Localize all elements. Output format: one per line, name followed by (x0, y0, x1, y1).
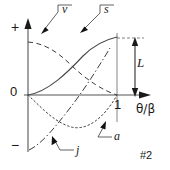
axis-label-origin: 0 (10, 85, 17, 98)
axis-label-positive: + (11, 20, 19, 34)
leader-arrowhead-s (80, 26, 88, 33)
leader-arrowhead-a (100, 121, 106, 129)
motion-profile-figure: + − 0 1 θ/β L v s a j #2 (0, 0, 170, 170)
curve-j-jerk (29, 48, 110, 150)
x-axis-label: θ/β (136, 103, 155, 115)
curve-v-velocity (28, 42, 117, 95)
curve-label-a: a (114, 130, 120, 142)
curve-label-v: v (62, 3, 67, 15)
x-axis-arrowhead (139, 91, 151, 98)
leader-arrowhead-v (41, 27, 49, 34)
curve-label-s: s (104, 3, 109, 15)
callout-leaders-group (41, 5, 114, 150)
y-axis-arrowhead (24, 18, 31, 29)
curve-a-acceleration (28, 95, 117, 128)
dimension-L-arrowhead-down (132, 88, 138, 97)
dimension-label-L: L (137, 56, 144, 69)
leader-stem-s (83, 13, 100, 30)
curve-v-group (28, 42, 117, 95)
axis-tick-label-one: 1 (114, 98, 121, 111)
curve-a-group (28, 95, 117, 128)
plot-canvas (0, 0, 170, 170)
figure-reference-tag: #2 (140, 150, 152, 161)
axis-label-negative: − (11, 138, 19, 152)
axis-group (24, 18, 151, 152)
curve-label-j: j (76, 144, 79, 156)
curve-j-group (29, 48, 110, 150)
leader-stem-v (44, 12, 58, 30)
